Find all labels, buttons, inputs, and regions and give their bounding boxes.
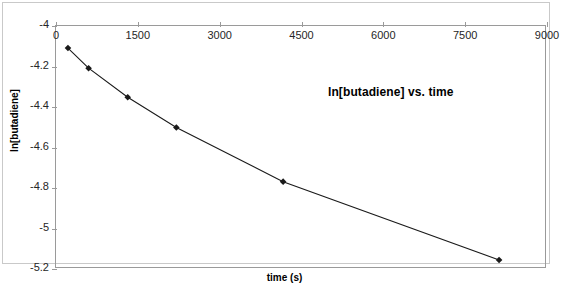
chart-screenshot: -4 -4.2 -4.4 -4.6 -4.8 -5 <box>0 0 569 300</box>
y-tick-label: -4.6 <box>30 140 49 152</box>
y-tick-label: -4.2 <box>30 59 49 71</box>
y-axis-title: ln[butadiene] <box>9 66 20 176</box>
data-point-4 <box>280 178 287 185</box>
series-markers-ln-butadiene <box>65 45 503 263</box>
series-line-ln-butadiene <box>68 48 499 260</box>
chart-frame: -4 -4.2 -4.4 -4.6 -4.8 -5 <box>2 2 550 264</box>
y-tick-mark <box>52 269 57 270</box>
y-tick-label: -4.4 <box>30 99 49 111</box>
y-tick-label: -4.8 <box>30 180 49 192</box>
x-tick-mark <box>547 22 548 27</box>
plot-area: -4 -4.2 -4.4 -4.6 -4.8 -5 <box>55 25 546 268</box>
data-point-3 <box>173 124 180 131</box>
y-tick-label: -4 <box>39 18 49 30</box>
x-axis-title: time (s) <box>0 272 569 283</box>
data-point-5 <box>496 257 503 264</box>
data-series-layer <box>56 26 545 267</box>
y-tick-label: -5 <box>39 221 49 233</box>
chart-title: ln[butadiene] vs. time <box>328 85 454 99</box>
